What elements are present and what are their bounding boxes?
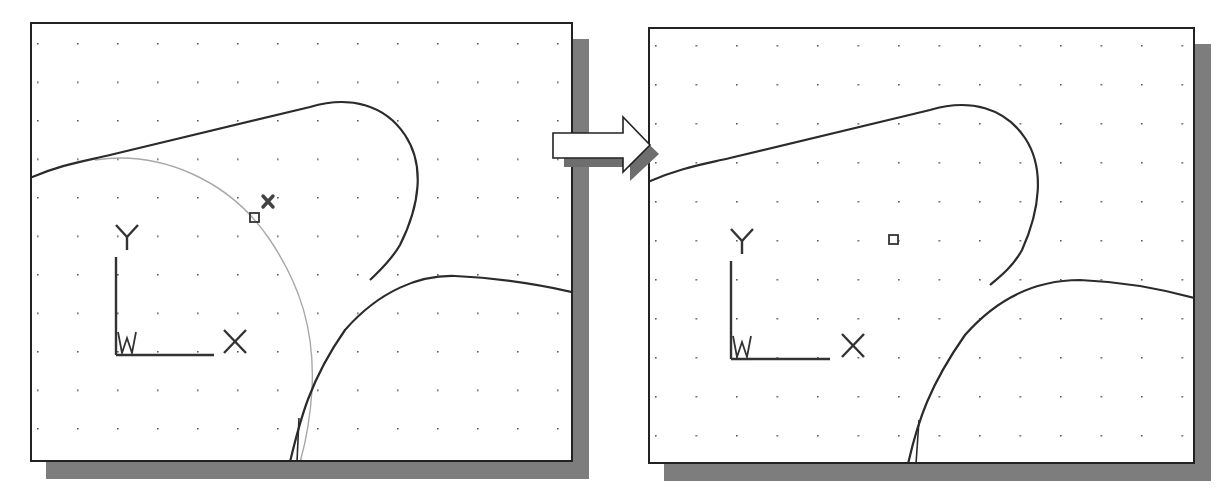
grid-dots	[650, 29, 1193, 462]
drawing-canvas	[0, 0, 1226, 496]
left-drawing	[30, 24, 572, 462]
grid-dots	[32, 24, 571, 460]
right-drawing	[648, 29, 1194, 464]
